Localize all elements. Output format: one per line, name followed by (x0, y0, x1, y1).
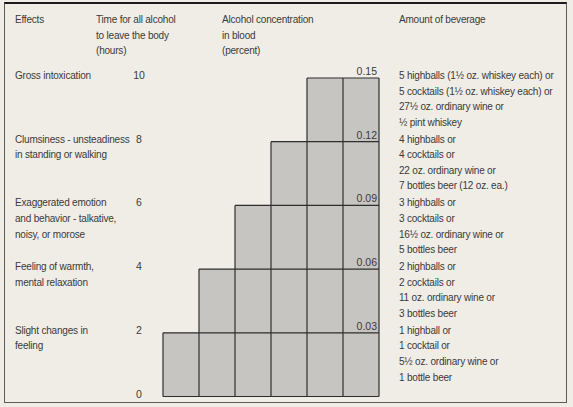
hours-tick-label: 8 (125, 132, 153, 148)
beverage-list: 3 highballs or3 cocktails or16½ oz. ordi… (399, 195, 571, 257)
column-header-effects: Effects (15, 12, 44, 28)
beverage-list: 5 highballs (1½ oz. whiskey each) or5 co… (399, 68, 571, 130)
column-header-amount: Amount of beverage (399, 12, 485, 28)
percent-tick-label: 0.06 (300, 255, 377, 271)
column-header-concentration: Alcohol concentrationin blood(percent) (222, 12, 313, 59)
hours-tick-label: 6 (125, 195, 153, 211)
beverage-list: 1 highball or1 cocktail or5½ oz. ordinar… (399, 323, 571, 385)
column-header-time: Time for all alcoholto leave the body(ho… (96, 12, 176, 59)
alcohol-effects-figure: Gross intoxication100.155 highballs (1½ … (0, 0, 573, 407)
beverage-list: 4 highballs or4 cocktails or22 oz. ordin… (399, 132, 571, 194)
hours-tick-label: 0 (125, 387, 153, 403)
percent-tick-label: 0.03 (300, 319, 377, 335)
hours-tick-label: 2 (125, 323, 153, 339)
percent-tick-label: 0.15 (300, 64, 377, 80)
percent-tick-label: 0.09 (300, 191, 377, 207)
hours-tick-label: 4 (125, 259, 153, 275)
beverage-list: 2 highballs or2 cocktails or11 oz. ordin… (399, 259, 571, 321)
hours-tick-label: 10 (125, 68, 153, 84)
percent-tick-label: 0.12 (300, 128, 377, 144)
